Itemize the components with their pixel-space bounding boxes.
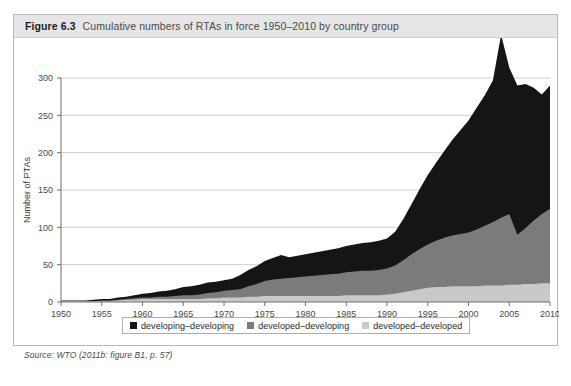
svg-text:1950: 1950 <box>51 309 71 319</box>
svg-text:2010: 2010 <box>540 309 559 319</box>
svg-text:200: 200 <box>38 148 53 158</box>
svg-text:2005: 2005 <box>499 309 519 319</box>
legend-item-developing-developing[interactable]: developing–developing <box>130 321 234 331</box>
figure-header: Figure 6.3 Cumulative numbers of RTAs in… <box>14 15 557 38</box>
chart-plot-region: 050100150200250300 195019551960196519701… <box>14 38 557 347</box>
y-axis-title: Number of PTAs <box>22 157 32 223</box>
y-axis-tick-labels: 050100150200250300 <box>38 73 53 307</box>
legend-label-developing-developing: developing–developing <box>141 321 234 331</box>
figure-title: Cumulative numbers of RTAs in force 1950… <box>83 20 399 32</box>
svg-text:0: 0 <box>48 297 53 307</box>
svg-text:300: 300 <box>38 73 53 83</box>
figure-number: Figure 6.3 <box>25 20 76 32</box>
svg-text:250: 250 <box>38 111 53 121</box>
legend-label-developed-developing: developed–developing <box>258 321 349 331</box>
legend-item-developed-developing[interactable]: developed–developing <box>247 321 349 331</box>
svg-text:50: 50 <box>43 260 53 270</box>
source-note: Source: WTO (2011b: figure B1, p. 57) <box>24 350 172 360</box>
legend-swatch-developed-developed <box>362 322 369 329</box>
legend-label-developed-developed: developed–developed <box>373 321 462 331</box>
legend-item-developed-developed[interactable]: developed–developed <box>362 321 462 331</box>
svg-text:150: 150 <box>38 185 53 195</box>
legend-swatch-developed-developing <box>247 322 254 329</box>
stacked-area-chart: 050100150200250300 195019551960196519701… <box>14 38 559 347</box>
chart-legend: developing–developing developed–developi… <box>122 317 470 334</box>
figure-container: Figure 6.3 Cumulative numbers of RTAs in… <box>13 14 558 346</box>
svg-text:1955: 1955 <box>92 309 112 319</box>
svg-text:100: 100 <box>38 223 53 233</box>
legend-swatch-developing-developing <box>130 322 137 329</box>
